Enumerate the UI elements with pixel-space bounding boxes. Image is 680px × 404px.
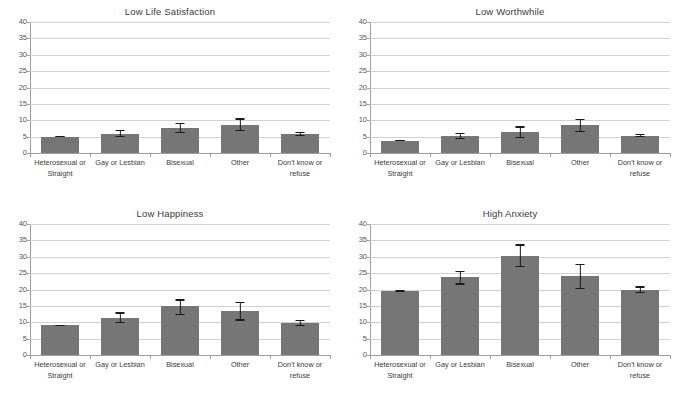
y-axis-tick-label: 10 [343,117,367,125]
y-axis-tick-label: 30 [343,51,367,59]
x-axis-tick-label: Bisexual [490,158,550,179]
x-axis-tick-label: Other [550,360,610,381]
error-bar-cap-bottom [456,283,465,284]
y-axis-tick-label: 15 [3,100,27,108]
x-axis-tick-label: Heterosexual or Straight [370,360,430,381]
bar-series [370,224,670,355]
error-bar-cap-bottom [116,136,125,137]
error-bar-cap-top [576,119,585,120]
y-axis-tick-label: 30 [3,253,27,261]
x-axis-tick-label: Heterosexual or Straight [370,158,430,179]
error-bar-cap-bottom [176,314,185,315]
y-axis: 0510152025303540 [0,22,27,153]
y-axis-tick-label: 0 [3,149,27,157]
x-axis-labels: Heterosexual or StraightGay or LesbianBi… [370,360,670,381]
x-axis-tick-mark [430,153,431,157]
x-axis-tick-mark [430,355,431,359]
x-axis-tick-mark [370,355,371,359]
bar-slot [430,224,490,355]
error-bar-stem [519,244,520,267]
chart-panel-2: Low Worthwhile0510152025303540Heterosexu… [340,0,680,202]
x-axis-tick-mark [550,355,551,359]
error-bar [176,299,185,315]
y-axis-tick-label: 40 [343,220,367,228]
error-bar-cap-top [456,133,465,134]
bar-slot [30,224,90,355]
y-axis-tick-label: 5 [343,133,367,141]
x-axis-tick-label: Don't know or refuse [610,360,670,381]
x-axis-tick-label: Gay or Lesbian [90,158,150,179]
bar-slot [610,22,670,153]
error-bar-stem [179,299,180,315]
error-bar-cap-bottom [456,138,465,139]
y-axis-tick-label: 10 [3,117,27,125]
error-bar-cap-top [576,264,585,265]
plot-area [370,22,670,153]
x-axis-tick-mark [210,355,211,359]
x-axis-tick-label: Gay or Lesbian [430,360,490,381]
bar-slot [270,224,330,355]
x-axis-tick-mark [210,153,211,157]
x-axis-ticks [370,153,670,157]
error-bar-cap-top [516,126,525,127]
y-axis: 0510152025303540 [0,224,27,355]
error-bar-cap-top [236,118,245,119]
chart-title: High Anxiety [340,208,680,219]
x-axis-tick-mark [30,355,31,359]
error-bar-cap-bottom [56,325,65,326]
error-bar-cap-bottom [236,130,245,131]
y-axis-tick-label: 35 [3,35,27,43]
error-bar [56,136,65,138]
error-bar-cap-bottom [296,135,305,136]
x-axis-tick-mark [370,153,371,157]
error-bar-cap-top [516,244,525,245]
bar-slot [610,224,670,355]
bar [501,256,539,355]
bar-slot [550,22,610,153]
error-bar-cap-top [116,312,125,313]
y-axis-tick-label: 5 [3,133,27,141]
error-bar [296,132,305,137]
bar-series [30,22,330,153]
plot-area [30,224,330,355]
x-axis-labels: Heterosexual or StraightGay or LesbianBi… [370,158,670,179]
x-axis-tick-label: Other [210,360,270,381]
y-axis-tick-label: 40 [3,220,27,228]
bar [41,137,79,153]
bar-series [30,224,330,355]
error-bar [236,302,245,321]
x-axis-tick-mark [490,355,491,359]
bar [381,141,419,153]
x-axis-tick-label: Bisexual [150,360,210,381]
x-axis-tick-mark [670,355,671,359]
x-axis-tick-label: Don't know or refuse [610,158,670,179]
error-bar-stem [239,302,240,321]
chart-panel-4: High Anxiety0510152025303540Heterosexual… [340,202,680,404]
error-bar-cap-bottom [576,131,585,132]
error-bar-cap-bottom [116,322,125,323]
chart-title: Low Worthwhile [340,6,680,17]
error-bar-cap-top [636,286,645,287]
x-axis-tick-mark [490,153,491,157]
error-bar-cap-top [636,134,645,135]
x-axis-tick-label: Gay or Lesbian [90,360,150,381]
error-bar [456,271,465,285]
error-bar [396,290,405,292]
x-axis-tick-mark [270,355,271,359]
x-axis-tick-mark [610,153,611,157]
y-axis: 0510152025303540 [340,22,367,153]
error-bar-cap-bottom [396,291,405,292]
plot-area [370,224,670,355]
y-axis-tick-label: 20 [343,84,367,92]
y-axis-tick-label: 40 [3,18,27,26]
x-axis-tick-label: Bisexual [150,158,210,179]
x-axis-tick-mark [90,153,91,157]
bar-slot [370,224,430,355]
error-bar-cap-top [176,299,185,300]
error-bar-cap-top [296,132,305,133]
y-axis-tick-label: 35 [3,237,27,245]
error-bar-stem [579,264,580,290]
error-bar [396,140,405,142]
y-axis-tick-label: 25 [343,67,367,75]
error-bar [516,126,525,138]
